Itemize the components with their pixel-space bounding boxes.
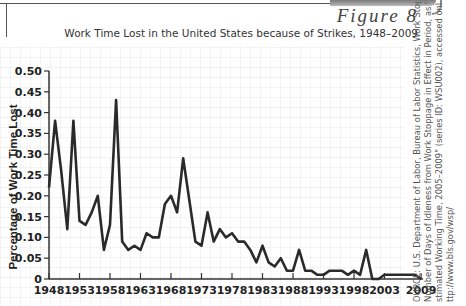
x-tick-label: 1958: [95, 284, 126, 297]
source-line: stimated Working Time, 2005–2009" (serie…: [434, 2, 445, 302]
source-note: OURCE: U.S. Department of Labor, Bureau …: [412, 2, 456, 302]
y-tick-label: 0.45: [15, 86, 42, 99]
y-tick-label: 0.05: [15, 252, 42, 265]
x-tick-label: 1988: [278, 284, 309, 297]
y-tick-label: 0.40: [15, 107, 42, 120]
source-line: ttp://www.bls.gov/wsp/: [445, 2, 456, 302]
source-line: Number of Days of Idleness from Work Sto…: [423, 2, 434, 302]
x-tick-label: 1948: [34, 284, 65, 297]
x-axis: 1948195319581963196819731978198319881993…: [34, 273, 437, 297]
y-tick-label: 0.15: [15, 211, 42, 224]
line-chart: Percentage of Work Time Lost 00.050.100.…: [0, 0, 466, 306]
x-tick-label: 1978: [217, 284, 248, 297]
data-line: [49, 100, 421, 279]
x-tick-label: 1983: [247, 284, 278, 297]
y-axis: 00.050.100.150.200.250.300.350.400.450.5…: [15, 65, 49, 286]
y-tick-label: 0.35: [15, 127, 42, 140]
y-tick-label: 0.50: [15, 65, 42, 78]
source-line: OURCE: U.S. Department of Labor, Bureau …: [412, 2, 423, 302]
x-tick-label: 1953: [64, 284, 95, 297]
x-tick-label: 1973: [186, 284, 217, 297]
x-tick-label: 1968: [156, 284, 187, 297]
x-tick-label: 1998: [339, 284, 370, 297]
y-tick-label: 0.25: [15, 169, 42, 182]
y-tick-label: 0.20: [15, 190, 42, 203]
y-tick-label: 0.10: [15, 231, 42, 244]
x-tick-label: 1993: [308, 284, 339, 297]
x-tick-label: 1963: [125, 284, 156, 297]
x-tick-label: 2003: [369, 284, 400, 297]
y-tick-label: 0.30: [15, 148, 42, 161]
